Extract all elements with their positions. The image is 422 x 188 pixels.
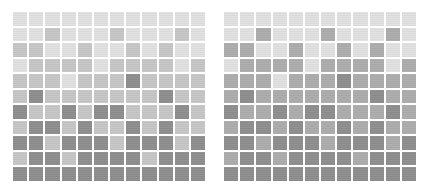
grid-cell [402,121,416,135]
grid-cell [13,28,27,42]
grid-cell [78,105,92,119]
grid-cell [159,28,173,42]
grid-cell [126,43,140,57]
grid-cell [386,121,400,135]
grid-cell [224,136,238,150]
grid-cell [402,43,416,57]
grid-cell [110,43,124,57]
grid-cell [29,136,43,150]
grid-cell [13,90,27,104]
grid-cell [29,12,43,26]
grid-cell [142,167,156,181]
grid-cell [386,59,400,73]
grid-cell [256,152,270,166]
grid-cell [305,152,319,166]
grid-cell [240,43,254,57]
grid-cell [240,136,254,150]
grid-cell [29,28,43,42]
grid-cell [386,167,400,181]
grid-cell [45,43,59,57]
grid-cell [110,28,124,42]
grid-cell [191,105,205,119]
grid-cell [321,167,335,181]
grid-cell [45,12,59,26]
grid-cell [191,28,205,42]
grid-cell [45,167,59,181]
grid-cell [110,105,124,119]
grid-cell [240,28,254,42]
grid-cell [94,121,108,135]
grid-cell [13,59,27,73]
grid-cell [240,90,254,104]
grid-cell [191,12,205,26]
grid-cell [386,90,400,104]
grid-cell [94,74,108,88]
grid-cell [159,121,173,135]
grid-cell [224,152,238,166]
grid-cell [305,28,319,42]
grid-cell [289,90,303,104]
grid-cell [126,28,140,42]
grid-cell [256,105,270,119]
grid-cell [13,167,27,181]
grid-cell [224,74,238,88]
grid-cell [273,90,287,104]
grid-cell [337,28,351,42]
grid-cell [29,59,43,73]
grid-cell [321,136,335,150]
grid-cell [273,28,287,42]
grid-cell [175,136,189,150]
grid-cell [142,59,156,73]
grid-cell [191,90,205,104]
grid-cell [402,167,416,181]
grid-cell [224,90,238,104]
grid-cell [402,136,416,150]
grid-cell [273,121,287,135]
grid-cell [256,59,270,73]
grid-cell [337,12,351,26]
grid-cell [321,43,335,57]
grid-cell [256,167,270,181]
grid-cell [62,121,76,135]
grid-cell [273,136,287,150]
grid-cell [386,105,400,119]
grid-cell [29,121,43,135]
grid-cell [305,90,319,104]
grid-cell [62,152,76,166]
grid-cell [94,12,108,26]
grid-cell [175,12,189,26]
grid-cell [256,12,270,26]
grid-cell [240,167,254,181]
grid-cell [191,74,205,88]
grid-cell [13,12,27,26]
grid-cell [402,74,416,88]
left-grid [13,12,205,181]
grid-cell [78,12,92,26]
grid-cell [240,152,254,166]
grid-cell [29,152,43,166]
grid-cell [321,105,335,119]
grid-cell [337,43,351,57]
grid-cell [110,121,124,135]
grid-cell [337,121,351,135]
grid-cell [13,152,27,166]
grid-cell [45,74,59,88]
grid-cell [273,12,287,26]
grid-cell [191,43,205,57]
grid-cell [305,121,319,135]
grid-cell [94,90,108,104]
grid-cell [94,152,108,166]
grid-cell [305,167,319,181]
grid-cell [159,105,173,119]
grid-cell [289,59,303,73]
grid-cell [337,167,351,181]
grid-cell [386,43,400,57]
grid-cell [273,74,287,88]
grid-cell [370,152,384,166]
grid-cell [370,121,384,135]
grid-cell [289,152,303,166]
grid-cell [337,105,351,119]
grid-cell [370,59,384,73]
grid-cell [224,59,238,73]
grid-cell [78,152,92,166]
